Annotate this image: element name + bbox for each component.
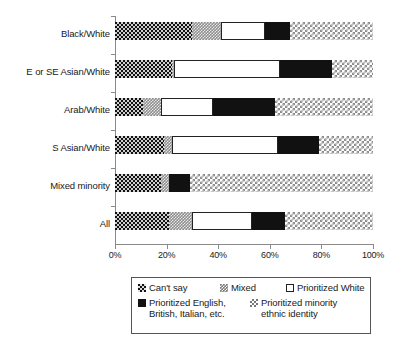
y-axis-label-e-or-se-asian-white: E or SE Asian/White bbox=[26, 66, 110, 77]
bar-segment-black-white-mixed bbox=[192, 22, 220, 40]
legend-swatch-prioritized-english-icon bbox=[138, 299, 146, 307]
x-tick-60 bbox=[270, 245, 271, 249]
bar-segment-s-asian-white-prioritized-white bbox=[172, 136, 278, 154]
y-tick-top bbox=[111, 16, 115, 17]
legend-item-cant-say: Can't say bbox=[138, 282, 220, 293]
x-tick-label-60: 60% bbox=[250, 250, 290, 261]
bar-row-arab-white bbox=[115, 98, 373, 116]
legend-swatch-prioritized-white-icon bbox=[286, 284, 294, 292]
bar-segment-arab-white-mixed bbox=[143, 98, 161, 116]
chart-legend: Can't say Mixed Prioritized White Priori… bbox=[131, 277, 371, 334]
legend-item-prioritized-english: Prioritized English, British, Italian, e… bbox=[138, 297, 250, 319]
legend-swatch-mixed-icon bbox=[220, 284, 228, 292]
x-tick-20 bbox=[167, 245, 168, 249]
bar-segment-all-prioritized-minority-ethnic-identity bbox=[285, 212, 373, 230]
y-axis-label-all: All bbox=[100, 218, 110, 229]
x-tick-label-80: 80% bbox=[301, 250, 341, 261]
y-tick-1 bbox=[111, 54, 115, 55]
y-tick-4 bbox=[111, 168, 115, 169]
bar-segment-s-asian-white-mixed bbox=[164, 136, 172, 154]
bar-segment-s-asian-white-can-t-say bbox=[115, 136, 164, 154]
bar-segment-s-asian-white-prioritized-minority-ethnic-identity bbox=[319, 136, 373, 154]
legend-label-cant-say: Can't say bbox=[149, 282, 187, 293]
bar-segment-e-or-se-asian-white-prioritized-white bbox=[174, 60, 280, 78]
bar-segment-all-prioritized-white bbox=[192, 212, 251, 230]
bar-segment-arab-white-prioritized-minority-ethnic-identity bbox=[275, 98, 373, 116]
bar-segment-black-white-can-t-say bbox=[115, 22, 192, 40]
x-tick-label-0: 0% bbox=[95, 250, 135, 261]
y-tick-2 bbox=[111, 92, 115, 93]
x-tick-label-20: 20% bbox=[147, 250, 187, 261]
y-tick-5 bbox=[111, 206, 115, 207]
x-tick-0 bbox=[115, 245, 116, 249]
bar-segment-all-can-t-say bbox=[115, 212, 169, 230]
legend-label-mixed: Mixed bbox=[231, 282, 256, 293]
bar-segment-e-or-se-asian-white-can-t-say bbox=[115, 60, 172, 78]
bar-row-black-white bbox=[115, 22, 373, 40]
x-axis-line bbox=[115, 244, 374, 245]
legend-label-prioritized-minority: Prioritized minority ethnic identity bbox=[261, 297, 337, 319]
bar-segment-arab-white-prioritized-english-british-italian- bbox=[213, 98, 275, 116]
y-axis-label-mixed-minority: Mixed minority bbox=[50, 180, 110, 191]
legend-item-prioritized-minority: Prioritized minority ethnic identity bbox=[250, 297, 365, 319]
bar-segment-black-white-prioritized-minority-ethnic-identity bbox=[290, 22, 373, 40]
stacked-bar-chart: 0% 20% 40% 60% 80% 100% Black/White E or… bbox=[0, 0, 404, 349]
y-axis-line bbox=[115, 16, 116, 244]
y-axis-label-black-white: Black/White bbox=[61, 28, 110, 39]
y-tick-3 bbox=[111, 130, 115, 131]
x-tick-80 bbox=[321, 245, 322, 249]
bar-segment-s-asian-white-prioritized-english-british-italian- bbox=[278, 136, 319, 154]
bar-segment-mixed-minority-prioritized-english-british-italian- bbox=[169, 174, 190, 192]
bar-segment-e-or-se-asian-white-prioritized-english-british-italian- bbox=[280, 60, 332, 78]
x-tick-40 bbox=[218, 245, 219, 249]
y-axis-label-s-asian-white: S Asian/White bbox=[52, 142, 110, 153]
bar-segment-black-white-prioritized-english-british-italian- bbox=[265, 22, 291, 40]
bar-segment-mixed-minority-mixed bbox=[161, 174, 169, 192]
legend-label-prioritized-white: Prioritized White bbox=[297, 282, 364, 293]
bar-segment-arab-white-prioritized-white bbox=[161, 98, 213, 116]
bar-segment-e-or-se-asian-white-prioritized-minority-ethnic-identity bbox=[332, 60, 373, 78]
legend-swatch-prioritized-minority-icon bbox=[250, 299, 258, 307]
x-tick-label-100: 100% bbox=[353, 250, 393, 261]
x-tick-100 bbox=[373, 245, 374, 249]
bar-segment-arab-white-can-t-say bbox=[115, 98, 143, 116]
bar-row-all bbox=[115, 212, 373, 230]
bar-segment-mixed-minority-can-t-say bbox=[115, 174, 161, 192]
legend-item-prioritized-white: Prioritized White bbox=[286, 282, 365, 293]
bar-segment-mixed-minority-prioritized-minority-ethnic-identity bbox=[190, 174, 373, 192]
y-axis-label-arab-white: Arab/White bbox=[64, 104, 110, 115]
bar-row-e-or-se-asian-white bbox=[115, 60, 373, 78]
bar-row-s-asian-white bbox=[115, 136, 373, 154]
legend-swatch-cant-say-icon bbox=[138, 284, 146, 292]
bar-segment-all-prioritized-english-british-italian- bbox=[252, 212, 286, 230]
bar-segment-black-white-prioritized-white bbox=[221, 22, 265, 40]
legend-item-mixed: Mixed bbox=[220, 282, 286, 293]
bar-segment-all-mixed bbox=[169, 212, 192, 230]
bar-row-mixed-minority bbox=[115, 174, 373, 192]
x-tick-label-40: 40% bbox=[198, 250, 238, 261]
legend-label-prioritized-english: Prioritized English, British, Italian, e… bbox=[149, 297, 226, 319]
